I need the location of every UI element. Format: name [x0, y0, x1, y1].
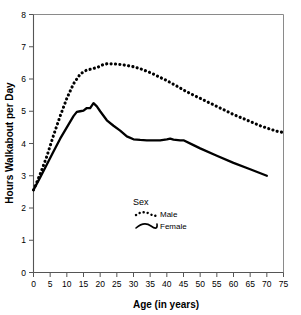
- y-tick-label: 0: [21, 268, 26, 278]
- x-tick-label: 70: [262, 279, 272, 289]
- y-tick-label: 8: [21, 10, 26, 20]
- y-tick-label: 5: [21, 106, 26, 116]
- legend-title: Sex: [133, 197, 149, 207]
- x-tick-label: 0: [31, 279, 36, 289]
- walkabout-hours-line-chart: 051015202530354045505560657075 012345678…: [0, 0, 301, 315]
- y-tick-label: 2: [21, 203, 26, 213]
- x-tick-label: 75: [279, 279, 289, 289]
- x-tick-label: 30: [129, 279, 139, 289]
- y-tick-label: 3: [21, 171, 26, 181]
- y-axis-tick-labels: 012345678: [21, 10, 26, 278]
- y-tick-label: 7: [21, 42, 26, 52]
- x-tick-label: 5: [48, 279, 53, 289]
- x-tick-label: 50: [195, 279, 205, 289]
- x-tick-label: 55: [212, 279, 222, 289]
- x-tick-label: 65: [245, 279, 255, 289]
- x-tick-label: 60: [229, 279, 239, 289]
- x-axis-title: Age (in years): [133, 299, 199, 310]
- x-tick-label: 35: [145, 279, 155, 289]
- x-tick-label: 40: [162, 279, 172, 289]
- x-tick-label: 10: [62, 279, 72, 289]
- y-axis-title: Hours Walkabout per Day: [4, 82, 15, 204]
- legend-label-female: Female: [160, 222, 187, 231]
- x-tick-label: 45: [179, 279, 189, 289]
- legend-label-male: Male: [160, 210, 178, 219]
- chart-container: 051015202530354045505560657075 012345678…: [0, 0, 301, 315]
- y-tick-label: 4: [21, 139, 26, 149]
- x-tick-label: 20: [95, 279, 105, 289]
- x-tick-label: 25: [112, 279, 122, 289]
- y-tick-label: 6: [21, 74, 26, 84]
- x-tick-label: 15: [79, 279, 89, 289]
- y-tick-label: 1: [21, 235, 26, 245]
